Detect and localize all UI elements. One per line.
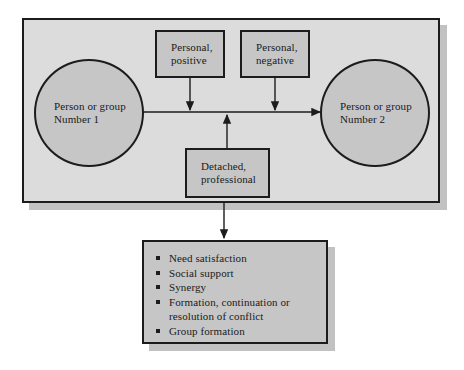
attitude-box-detached-professional-label: Detached, professional — [187, 160, 268, 187]
outcomes-box-shadow-right — [328, 247, 335, 351]
interaction-panel-shadow-right — [440, 25, 447, 210]
personal-positive-line2: positive — [171, 54, 223, 68]
outcomes-box-shadow — [149, 344, 335, 351]
actor-person-or-group-2-label: Person or group Number 2 — [322, 100, 428, 127]
personal-positive-line1: Personal, — [171, 41, 223, 55]
actor-person-or-group-1: Person or group Number 1 — [34, 59, 144, 167]
bullet-square-icon — [156, 285, 160, 289]
outcome-item-label: Social support — [169, 267, 234, 279]
outcome-item-label: Synergy — [169, 281, 206, 293]
outcome-item: Synergy — [156, 280, 318, 295]
actor-2-line2: Number 2 — [340, 113, 428, 127]
outcome-item-label: Formation, continuation or resolution of… — [169, 296, 290, 323]
attitude-box-personal-negative-label: Personal, negative — [242, 41, 308, 68]
outcome-item: Group formation — [156, 324, 318, 339]
personal-negative-line2: negative — [256, 54, 308, 68]
bullet-square-icon — [156, 300, 160, 304]
attitude-box-detached-professional: Detached, professional — [185, 148, 270, 198]
bullet-square-icon — [156, 271, 160, 275]
detached-professional-line2: professional — [201, 173, 268, 187]
attitude-box-personal-negative: Personal, negative — [240, 30, 310, 78]
actor-1-line2: Number 1 — [54, 113, 142, 127]
interaction-diagram: Person or group Number 1 Person or group… — [0, 0, 464, 370]
outcomes-box: Need satisfactionSocial supportSynergyFo… — [142, 240, 328, 344]
bullet-square-icon — [156, 329, 160, 333]
actor-person-or-group-1-label: Person or group Number 1 — [36, 100, 142, 127]
attitude-box-personal-positive: Personal, positive — [155, 30, 225, 78]
bullet-square-icon — [156, 256, 160, 260]
actor-1-line1: Person or group — [54, 100, 142, 114]
attitude-box-personal-positive-label: Personal, positive — [157, 41, 223, 68]
detached-professional-line1: Detached, — [201, 160, 268, 174]
outcomes-list: Need satisfactionSocial supportSynergyFo… — [156, 251, 318, 339]
personal-negative-line1: Personal, — [256, 41, 308, 55]
outcome-item-label: Group formation — [169, 325, 245, 337]
interaction-panel-shadow — [29, 203, 447, 210]
actor-2-line1: Person or group — [340, 100, 428, 114]
actor-person-or-group-2: Person or group Number 2 — [320, 59, 430, 167]
outcome-item: Social support — [156, 266, 318, 281]
outcome-item-label: Need satisfaction — [169, 252, 247, 264]
outcome-item: Need satisfaction — [156, 251, 318, 266]
outcome-item: Formation, continuation or resolution of… — [156, 295, 318, 324]
